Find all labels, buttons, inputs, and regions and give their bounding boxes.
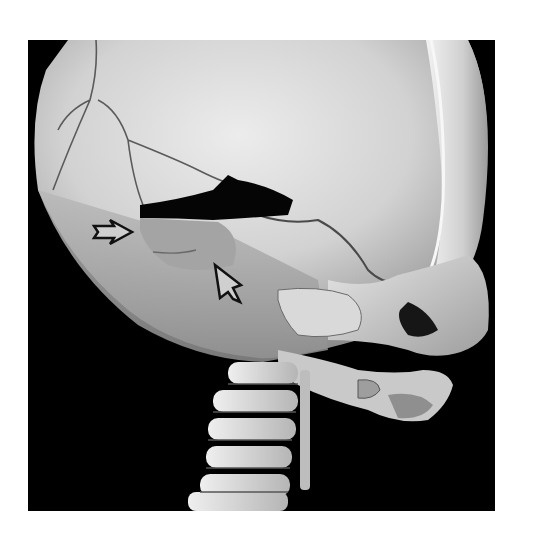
cervical-spine: [188, 362, 310, 511]
ct-rendering-frame: [28, 40, 495, 511]
skull-rendering: [28, 40, 495, 511]
